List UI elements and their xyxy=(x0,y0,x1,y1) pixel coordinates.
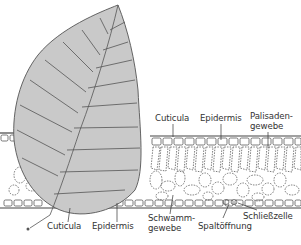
label-lower-cuticula: Cuticula xyxy=(47,222,81,232)
leaf-blade xyxy=(14,5,141,214)
palisade-tissue xyxy=(151,147,301,172)
label-upper-epidermis: Epidermis xyxy=(200,114,242,124)
label-upper-cuticula: Cuticula xyxy=(155,114,189,124)
label-lower-epidermis: Epidermis xyxy=(92,222,134,232)
upper-epidermis xyxy=(152,138,301,145)
beech-leaf xyxy=(14,5,141,231)
petiole-tip xyxy=(27,228,30,231)
label-spongy-tissue: Schwamm- gewebe xyxy=(148,214,195,233)
palisade-line-2: gewebe xyxy=(250,122,293,132)
label-stoma: Spaltöffnung xyxy=(198,222,252,232)
label-palisade-tissue: Palisaden- gewebe xyxy=(250,112,293,131)
label-guard-cell: Schließzelle xyxy=(243,212,293,222)
spongy-line-2: gewebe xyxy=(148,224,195,234)
